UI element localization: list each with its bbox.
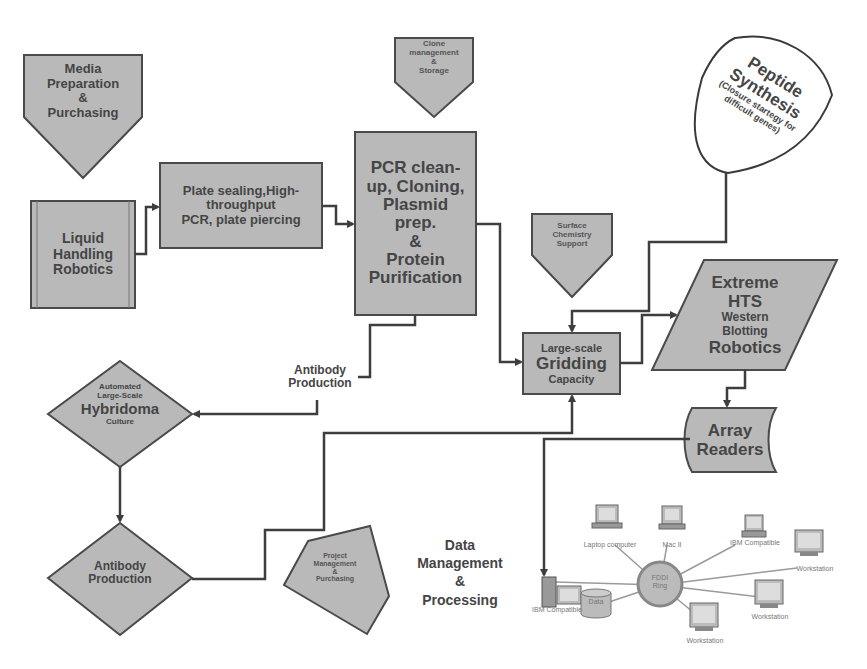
media-prep-label: Media Preparation & Purchasing — [24, 62, 142, 120]
device-label-laptop: Laptop computer — [575, 541, 645, 549]
antibody-diamond-label: Antibody Production — [48, 560, 192, 587]
fddi-hub-label: FDDI Ring — [640, 574, 680, 590]
surface-chemistry-label: Surface Chemistry Support — [532, 222, 612, 249]
edge-plate-to-pcr — [322, 206, 353, 224]
edge-pcr-to-gridding — [476, 224, 521, 362]
edge-hts-to-array — [727, 370, 745, 406]
pcr-cleanup-label: PCR clean- up, Cloning, Plasmid prep. & … — [355, 132, 476, 315]
gridding-label: Large-scale Gridding Capacity — [523, 333, 620, 394]
device-label-workstation-2: Workstation — [740, 613, 800, 621]
hybridoma-label: Automated Large-Scale Hybridoma Culture — [48, 383, 192, 427]
workstation-icon-1 — [795, 530, 823, 556]
device-label-workstation-1: Workstation — [785, 565, 845, 573]
device-label-ibm-2: IBM Compatible — [720, 539, 790, 547]
ibm-pc-icon — [742, 515, 766, 537]
laptop-icon — [592, 505, 622, 528]
device-label-data: Data — [581, 598, 611, 606]
device-label-mac: Mac II — [652, 541, 692, 549]
workstation-icon-3 — [690, 603, 718, 631]
device-label-workstation-3: Workstation — [675, 637, 735, 645]
data-mgmt-label: Data Management & Processing — [400, 536, 520, 609]
extreme-hts-label: Extreme HTS Western Blotting Robotics — [680, 262, 810, 368]
array-readers-label: Array Readers — [684, 408, 776, 472]
mac-icon — [659, 506, 685, 529]
edge-liquid-to-plate — [135, 207, 158, 254]
device-label-ibm-1: IBM Compatible — [522, 606, 592, 614]
edge-antibody-label-to-hybridoma — [194, 400, 317, 414]
project-mgmt-label: Project Management & Purchasing — [295, 552, 375, 583]
clone-mgmt-label: Clone management & Storage — [395, 40, 473, 76]
plate-sealing-label: Plate sealing,High- throughput PCR, plat… — [160, 163, 322, 248]
liquid-handling-label: Liquid Handling Robotics — [31, 201, 135, 308]
workstation-icon-2 — [755, 580, 783, 608]
antibody-production-edge-label: Antibody Production — [270, 364, 370, 391]
